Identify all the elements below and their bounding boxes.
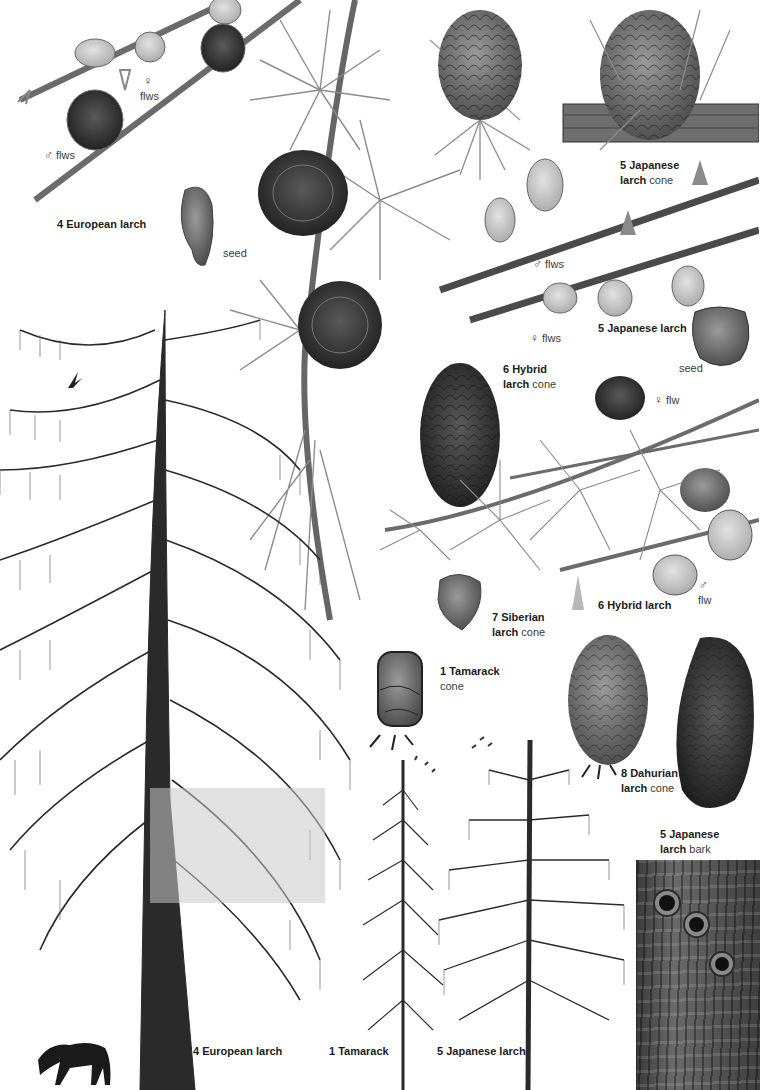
label-european-male-flowers: ♂flws [44,148,75,163]
label-hybrid-female-flower: ♀flw [654,393,679,408]
label-japanese-seed: seed [679,361,703,376]
bark-knot [715,957,729,971]
label-european-seed: seed [223,246,247,261]
european-larch-tree [0,310,350,1090]
label-hybrid-larch: 6 Hybrid larch [598,598,671,613]
label-european-female-flowers: ♀ flws [140,74,159,104]
label-japanese-larch: 5 Japanese larch [598,321,687,336]
european-large-cone [430,10,530,180]
label-tree-tamarack: 1 Tamarack [329,1044,389,1059]
label-japanese-female-flowers: ♀flws [530,331,561,346]
label-japanese-larch-bark: 5 Japanese larch bark [660,827,719,857]
tamarack-tree [363,756,443,1090]
label-hybrid-male-flower: ♂ flw [698,578,711,608]
label-japanese-larch-cone: 5 Japanese larch cone [620,158,679,188]
label-tree-japanese-larch: 5 Japanese larch [437,1044,526,1059]
japanese-flowering-shoots [440,159,759,320]
siberian-cone [438,574,481,630]
european-flowering-shoot [18,0,300,200]
bird-silhouette [68,372,82,388]
label-european-larch: 4 European larch [57,217,146,232]
tamarack-cone [370,652,422,750]
japanese-cone-on-branch [563,10,759,150]
japanese-larch-bark-panel [636,860,760,1090]
label-dahurian-larch-cone: 8 Dahurian larch cone [621,766,678,796]
label-hybrid-larch-cone: 6 Hybrid larch cone [503,362,556,392]
japanese-larch-tree [439,737,624,1090]
european-mature-cones-shoot [230,0,460,620]
japanese-seed [692,307,749,366]
label-tamarack-cone: 1 Tamarack cone [440,664,500,694]
label-siberian-larch-cone: 7 Siberian larch cone [492,610,545,640]
label-japanese-male-flowers: ♂flws [533,257,564,272]
european-seed [181,187,213,265]
bark-knot [689,917,704,932]
european-larch-foliage-highlight [150,788,325,903]
hybrid-cone [420,363,500,507]
bark-knot [659,895,675,911]
deer-silhouette [38,1043,110,1085]
label-tree-european-larch: 4 European larch [193,1044,282,1059]
